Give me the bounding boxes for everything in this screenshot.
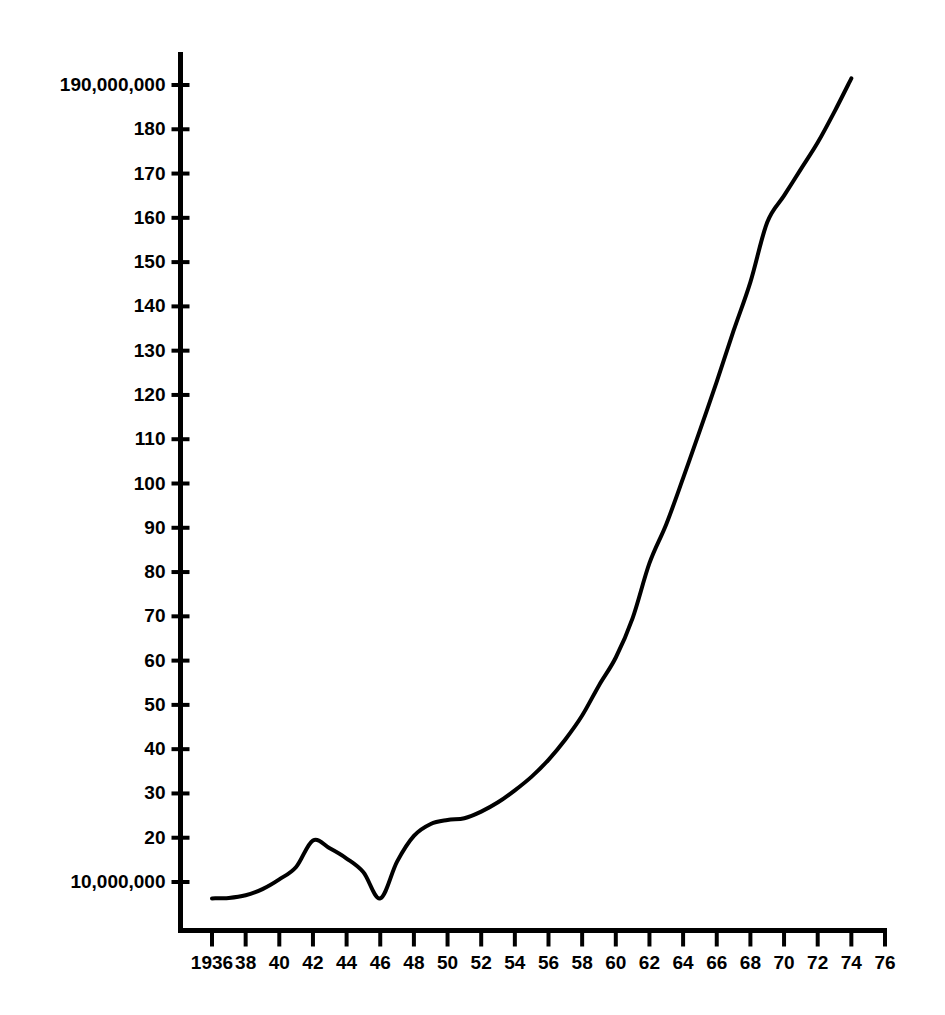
x-axis-ticks (212, 931, 885, 947)
y-tick-label: 140 (134, 296, 166, 315)
axes (178, 52, 887, 931)
y-tick-label: 60 (144, 651, 165, 670)
x-tick-label: 76 (845, 953, 925, 972)
y-tick-label: 120 (134, 385, 166, 404)
y-tick-label: 180 (134, 119, 166, 138)
chart-figure: 10,000,000203040506070809010011012013014… (0, 0, 945, 1015)
line-series-path (212, 78, 851, 898)
y-tick-label: 70 (144, 606, 165, 625)
y-tick-label: 20 (144, 828, 165, 847)
y-tick-label: 130 (134, 341, 166, 360)
y-tick-label: 80 (144, 562, 165, 581)
y-tick-label: 170 (134, 164, 166, 183)
y-tick-label: 30 (144, 783, 165, 802)
y-tick-label: 190,000,000 (60, 75, 166, 94)
y-tick-label: 160 (134, 208, 166, 227)
data-series (212, 78, 851, 898)
chart-canvas (0, 0, 945, 1015)
y-tick-label: 150 (134, 252, 166, 271)
y-tick-label: 40 (144, 739, 165, 758)
y-tick-label: 50 (144, 695, 165, 714)
y-tick-label: 110 (135, 429, 166, 448)
y-tick-label: 100 (134, 474, 166, 493)
y-tick-label: 90 (144, 518, 165, 537)
y-tick-label: 10,000,000 (70, 872, 165, 891)
